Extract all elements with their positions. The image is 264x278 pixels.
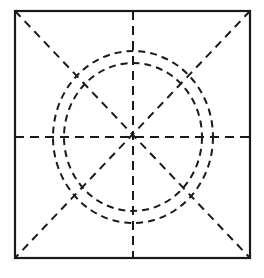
geometric-diagram <box>0 0 264 278</box>
figure-container <box>0 0 264 278</box>
